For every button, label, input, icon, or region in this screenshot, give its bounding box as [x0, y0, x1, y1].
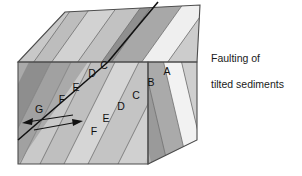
unit-label-F-lower: F — [91, 125, 97, 137]
unit-label-G: G — [35, 103, 43, 115]
unit-label-B: B — [147, 76, 154, 88]
unit-label-D-upper: D — [88, 67, 96, 79]
figure-root: G F E D C F E D C A B Faulting of tilted… — [0, 0, 302, 176]
unit-label-A: A — [163, 65, 170, 77]
unit-label-E-lower: E — [102, 112, 109, 124]
unit-label-E-upper: E — [72, 81, 79, 93]
caption-line-2: tilted sediments — [211, 78, 284, 90]
unit-label-D-lower: D — [117, 100, 125, 112]
unit-label-C-lower: C — [132, 89, 140, 101]
unit-label-F-upper: F — [59, 93, 65, 105]
unit-label-C-upper: C — [100, 59, 108, 71]
caption-line-1: Faulting of — [211, 52, 260, 64]
figure-caption: Faulting of tilted sediments — [211, 39, 299, 91]
